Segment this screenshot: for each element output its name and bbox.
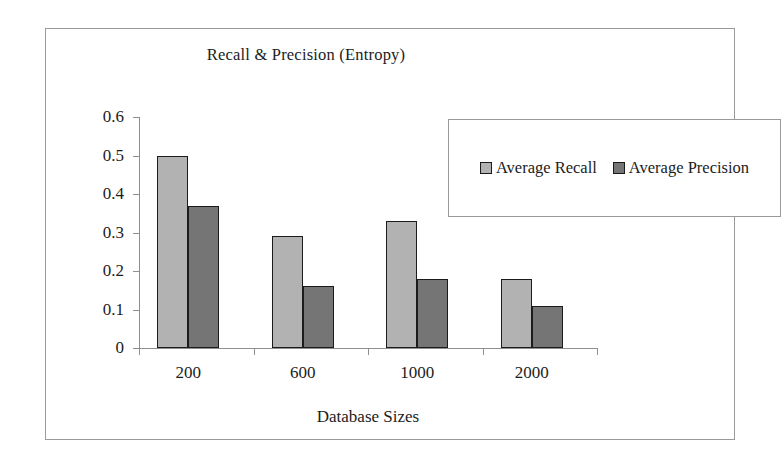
bar-group [272,236,334,348]
chart-title: Recall & Precision (Entropy) [46,45,566,65]
bar-group [501,279,563,348]
x-axis-tick-label: 600 [290,363,316,383]
y-axis-tick: 0.5 [133,156,139,157]
bar-average-precision-600 [303,286,334,348]
x-axis-tick [368,348,369,355]
y-axis-tick: 0.2 [133,271,139,272]
y-axis-tick-label: 0.4 [103,184,124,204]
x-axis-tick [139,348,140,355]
chart-frame: Recall & Precision (Entropy) 00.10.20.30… [45,28,735,440]
bar-average-recall-600 [272,236,303,348]
y-axis-tick-label: 0.3 [103,223,124,243]
legend-entry-average-recall: Average Recall [480,158,597,178]
x-axis-tick [597,348,598,355]
y-axis-tick-label: 0.1 [103,300,124,320]
bar-average-precision-2000 [532,306,563,348]
x-axis-tick-label: 1000 [400,363,434,383]
y-axis-tick: 0.4 [133,194,139,195]
x-axis-tick-label: 200 [176,363,202,383]
bar-group [386,221,448,348]
y-axis-tick: 0.3 [133,233,139,234]
legend-label-average-precision: Average Precision [629,158,749,178]
legend-swatch-icon-average-recall [480,162,492,174]
x-axis-tick [254,348,255,355]
legend-swatch-icon-average-precision [613,162,625,174]
x-axis-tick [483,348,484,355]
y-axis-tick-label: 0.5 [103,146,124,166]
x-axis-title: Database Sizes [139,407,597,427]
bar-average-precision-200 [188,206,219,348]
y-axis-tick-label: 0.2 [103,261,124,281]
chart-legend: Average Recall Average Precision [448,119,781,217]
bar-average-recall-2000 [501,279,532,348]
legend-label-average-recall: Average Recall [496,158,597,178]
y-axis-tick-label: 0 [116,338,125,358]
y-axis-tick-label: 0.6 [103,107,124,127]
bar-group [157,156,219,349]
y-axis-tick: 0.1 [133,310,139,311]
y-axis-line [139,117,140,349]
x-axis-tick-label: 2000 [515,363,549,383]
bar-average-recall-200 [157,156,188,349]
bar-average-recall-1000 [386,221,417,348]
y-axis-tick: 0.6 [133,117,139,118]
bar-average-precision-1000 [417,279,448,348]
legend-entry-average-precision: Average Precision [613,158,749,178]
